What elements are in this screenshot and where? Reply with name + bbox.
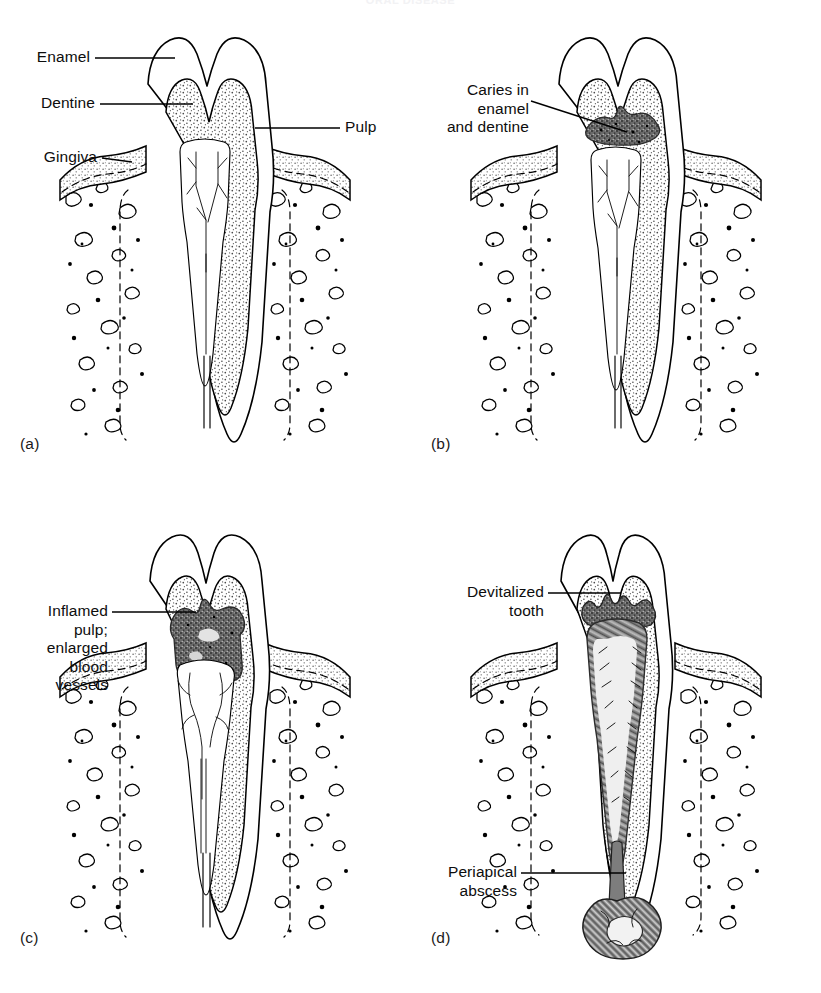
- panel-b-illustration: [411, 0, 821, 496]
- necrotic-root-canal: [609, 841, 625, 908]
- panel-letter-a: (a): [20, 435, 40, 453]
- label-pulp: Pulp: [345, 118, 405, 137]
- label-dentine: Dentine: [10, 94, 95, 113]
- panel-letter-b: (b): [431, 435, 451, 453]
- panel-letter-d: (d): [431, 929, 451, 947]
- alveolar-bone-right: [270, 659, 354, 932]
- label-devitalized-tooth: Devitalized tooth: [411, 583, 544, 620]
- label-caries: Caries in enamel and dentine: [411, 81, 529, 137]
- panel-c-illustration: [0, 497, 410, 993]
- alveolar-bone-left: [56, 659, 144, 932]
- panel-letter-c: (c): [20, 929, 39, 947]
- panel-a-healthy-tooth: Enamel Dentine Gingiva Pulp (a): [0, 0, 410, 496]
- label-inflamed-pulp: Inflamed pulp; enlarged blood vessels: [0, 602, 108, 695]
- label-enamel: Enamel: [10, 48, 90, 67]
- label-periapical-abscess: Periapical abscess: [411, 863, 517, 900]
- alveolar-bone-left: [56, 162, 144, 435]
- panel-d-illustration: [411, 497, 821, 993]
- dental-caries-progression-figure: ORAL DISEASE: [0, 0, 821, 993]
- panel-d-devitalized-tooth: Devitalized tooth Periapical abscess (d): [411, 497, 821, 993]
- panel-c-inflamed-pulp: Inflamed pulp; enlarged blood vessels (c…: [0, 497, 410, 993]
- panel-b-caries: Caries in enamel and dentine (b): [411, 0, 821, 496]
- alveolar-bone-left: [467, 162, 555, 435]
- alveolar-bone-right: [681, 162, 765, 435]
- panel-a-illustration: [0, 0, 410, 496]
- alveolar-bone-right: [270, 162, 354, 435]
- alveolar-bone-right: [681, 659, 765, 932]
- label-gingiva: Gingiva: [10, 148, 97, 167]
